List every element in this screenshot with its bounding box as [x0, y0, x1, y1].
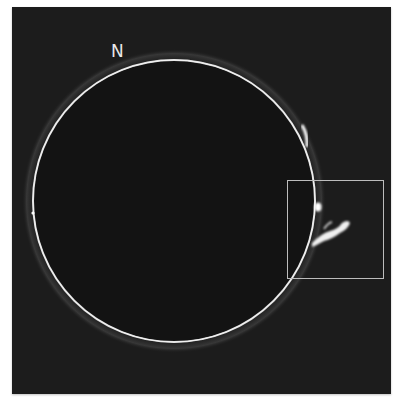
north-label: N — [111, 41, 124, 61]
prominence-highlight-box — [287, 180, 384, 279]
solar-image-panel: N — [12, 7, 391, 394]
solar-disk — [33, 60, 315, 342]
